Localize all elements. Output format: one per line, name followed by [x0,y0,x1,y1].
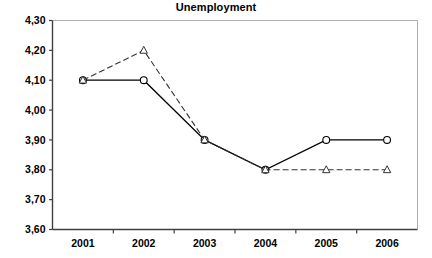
x-axis-tick-label: 2006 [375,237,399,249]
y-axis-tick-label: 4,20 [25,44,46,56]
data-point-marker [323,137,330,144]
y-axis-tick-label: 3,80 [25,163,46,175]
chart-plot-area: 4,304,204,104,003,903,803,703,60 2001200… [0,0,432,258]
x-axis-tick-label: 2002 [132,237,156,249]
data-point-marker [323,166,330,173]
x-axis-labels: 200120022003200420052006 [71,237,399,249]
series-line [83,50,387,169]
data-point-marker [384,137,391,144]
x-axis-tick-label: 2005 [315,237,339,249]
y-axis-tick-label: 4,10 [25,74,46,86]
x-axis-tick-label: 2003 [193,237,217,249]
y-axis-tick-label: 4,30 [25,14,46,26]
y-axis-tick-label: 4,00 [25,104,46,116]
plot-frame [53,21,418,230]
chart-container: Unemployment 4,304,204,104,003,903,803,7… [0,0,432,258]
data-point-marker [140,46,147,53]
y-axis-tick-label: 3,70 [25,193,46,205]
series-line [83,80,387,170]
x-axis-tick-label: 2001 [71,237,95,249]
x-axis-tick-label: 2004 [254,237,278,249]
y-axis-tick-label: 3,60 [25,223,46,235]
data-point-marker [140,77,147,84]
y-axis-tick-label: 3,90 [25,134,46,146]
data-series-group [79,46,391,173]
data-point-marker [383,166,390,173]
y-axis-labels: 4,304,204,104,003,903,803,703,60 [25,14,46,235]
